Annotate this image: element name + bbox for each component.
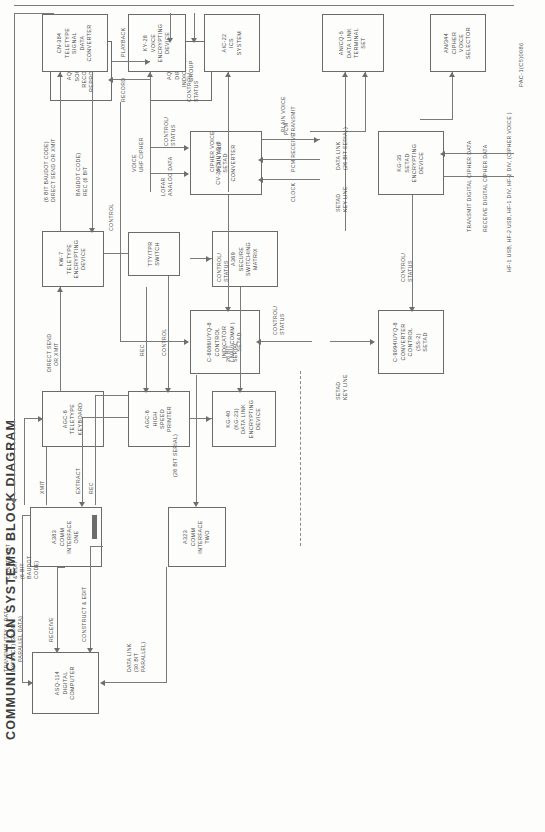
box-line: KW-7 — [58, 252, 65, 267]
label-26bit-serial-paren: (26 BIT SERIAL) — [172, 434, 179, 477]
box-line: SET — [360, 37, 367, 49]
connector — [90, 546, 91, 651]
box-line: ENCRYPTING — [157, 24, 164, 63]
connector — [14, 14, 15, 502]
label-clock: CLOCK — [290, 183, 297, 202]
box-line: ASQ-114 — [54, 671, 61, 695]
box-aic22: AIC-22 ICS SYSTEM — [204, 14, 260, 72]
arrowhead — [449, 72, 455, 77]
arrowhead — [57, 287, 63, 292]
arrowhead — [237, 388, 243, 393]
connector — [22, 515, 31, 516]
box-line: SELECTOR — [465, 27, 472, 59]
label-construct-edit: CONSTRUCT & EDIT — [81, 587, 88, 642]
box-an344: AN/344 CIPHER VOICE SELECTOR — [430, 14, 486, 72]
arrowhead — [165, 388, 171, 393]
connector — [146, 287, 147, 391]
connector — [420, 119, 453, 120]
arrowhead — [206, 416, 211, 422]
connector — [14, 5, 514, 6]
label-control-status-2b: STATUS — [279, 314, 286, 336]
box-cn384: CN-384 TELETYPE SIGNAL DATA CONVERTER — [42, 14, 108, 72]
box-line: TELETYPE — [66, 244, 73, 274]
label-uhf-cipher-a: UHF CIPHER — [138, 137, 145, 172]
connector — [330, 341, 372, 342]
label-plain-cipher-b: CIPHER VOICE — [209, 131, 216, 172]
box-line: DATA — [79, 36, 86, 51]
connector — [412, 195, 413, 310]
box-line: SWITCH — [154, 242, 161, 265]
label-rec-6bit-a: REC (6 BIT — [82, 166, 89, 196]
arrowhead — [206, 256, 211, 262]
box-line: SETAD — [422, 332, 429, 351]
box-line: ENCRYPTING — [73, 240, 80, 279]
diagram-stage: COMMUNICATION SYSTEMS BLOCK DIAGRAM PAC-… — [0, 0, 545, 832]
label-setad-key-line-a: SETAD — [335, 382, 342, 400]
connector — [150, 147, 188, 148]
box-line: MATRIX — [252, 248, 259, 270]
diagram-viewport: COMMUNICATION SYSTEMS BLOCK DIAGRAM PAC-… — [0, 0, 545, 832]
connector — [150, 72, 151, 192]
box-line: DATA LINK — [346, 28, 353, 58]
box-line: ENCRYPTING — [411, 144, 418, 183]
bus-dashed-line — [300, 371, 301, 546]
label-rec-6bit-b: BAUDOT CODE) — [75, 153, 82, 196]
label-lofar-b: ANALOG DATA — [167, 157, 174, 196]
connector — [92, 72, 93, 231]
box-line: TTY/TPR — [147, 242, 154, 267]
connector — [196, 375, 197, 505]
box-line: (SS-2) — [415, 333, 422, 351]
arrowhead — [87, 648, 93, 653]
connector — [82, 417, 128, 418]
label-extract: EXTRACT — [75, 468, 82, 494]
label-plain-cipher-a: PLAIN AND — [216, 142, 223, 172]
label-transmit-cipher: TRANSMIT DIGITAL CIPHER DATA — [466, 141, 473, 232]
arrowhead — [314, 137, 319, 143]
box-line: COMM — [190, 528, 197, 546]
box-line: TERMINAL — [353, 28, 360, 58]
label-direct-send-or-xmit-b: (6 BIT BAUDOT CODE) — [43, 141, 50, 202]
box-line: AIC-22 — [221, 34, 228, 53]
connector — [240, 287, 241, 391]
label-playback: PLAYBACK — [120, 28, 127, 57]
label-control-status-3: CONTROL/ — [400, 253, 407, 282]
label-setad-key-line2-b: KEY LINE — [342, 186, 349, 212]
box-line: VOICE — [458, 34, 465, 53]
box-line: ICS — [228, 38, 235, 48]
arrowhead — [108, 77, 113, 83]
arrowhead — [38, 416, 43, 422]
box-c9094: C-9094/UYQ-8 CONVERTER CONTROL (SS-2) SE… — [378, 310, 444, 374]
box-line: C-8086/UYQ-8 — [206, 322, 213, 362]
box-line: CONVERTER — [230, 145, 237, 182]
arrowhead — [100, 680, 105, 686]
arrowhead — [193, 502, 199, 507]
label-parallel-data: PARALLEL DATA) — [17, 616, 24, 662]
box-line: VOICE — [150, 34, 157, 53]
label-direct-send-xmit-a: DIRECT SEND — [46, 334, 53, 372]
connector — [228, 195, 229, 310]
connector — [310, 131, 366, 132]
box-line: AN/344 — [443, 33, 450, 53]
arrowhead — [191, 38, 197, 43]
box-line: PRINTER — [166, 406, 173, 432]
arrowhead — [342, 72, 348, 77]
box-a323: A323 COMM INTERFACE TWO — [168, 507, 226, 567]
box-line: SWITCHING — [245, 242, 252, 276]
box-line: SIGNAL — [71, 32, 78, 54]
box-line: AGC-6 — [144, 410, 151, 428]
label-direct-send-or-xmit-a: DIRECT SEND OR XMIT — [50, 138, 57, 202]
label-rec-2: REC — [139, 344, 146, 356]
label-control-status-2: CONTROL/ — [272, 306, 279, 335]
label-lofar-a: LOFAR — [160, 177, 167, 196]
label-control-status-4b: STATUS — [170, 125, 177, 147]
box-line: AN/CQ-5 — [338, 31, 345, 55]
connector — [168, 276, 169, 391]
figure-code: PAC-1(C5)0086 — [518, 42, 524, 87]
arrowhead — [143, 388, 149, 393]
arrowhead — [370, 339, 375, 345]
label-direct-send-xmit-b: OR XMIT — [53, 342, 60, 366]
connector — [60, 287, 61, 391]
connector — [262, 179, 320, 180]
box-agc6pr: AGC-6 HIGH SPEED PRINTER — [128, 391, 190, 447]
connector — [228, 72, 229, 192]
